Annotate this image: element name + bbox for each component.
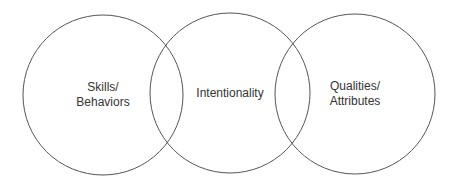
label-intentionality: Intentionality xyxy=(196,86,263,101)
label-qualities-attributes: Qualities/ Attributes xyxy=(330,79,381,109)
label-skills-behaviors: Skills/ Behaviors xyxy=(76,80,129,110)
label-line: Intentionality xyxy=(196,86,263,101)
label-line: Behaviors xyxy=(76,95,129,110)
label-line: Attributes xyxy=(330,94,381,109)
label-line: Skills/ xyxy=(76,80,129,95)
label-line: Qualities/ xyxy=(330,79,381,94)
